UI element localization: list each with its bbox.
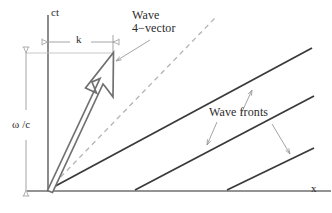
leader-line-four-vector [116, 40, 150, 61]
wave-fronts-annotation: Wave fronts [209, 106, 268, 119]
ct-axis-label: ct [51, 6, 59, 18]
wave-four-vector-line-1: Wave [132, 8, 159, 22]
leader-lines-group [116, 40, 290, 154]
wave-front-line-3 [227, 148, 314, 190]
omega-over-c-dimension-label: ω /c [12, 118, 30, 130]
k-dimension-label: k [76, 33, 82, 45]
leader-line-wave-front-2 [207, 122, 217, 145]
x-axis-label: x [311, 182, 317, 194]
wave-four-vector-annotation: Wave4−vector [132, 9, 176, 36]
light-cone-dashed-line [48, 17, 216, 190]
k-dimension-group [26, 35, 113, 55]
wave-four-vector-line-2: 4−vector [132, 21, 176, 35]
leader-line-wave-front-3 [272, 124, 290, 154]
spacetime-wave-diagram: ct x k ω /c Wave4−vector Wave fronts [0, 0, 332, 213]
wave-fronts-group [48, 48, 314, 190]
axes-group [27, 15, 331, 191]
